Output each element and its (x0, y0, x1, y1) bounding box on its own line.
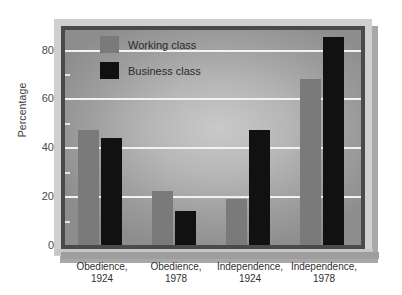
bar-business-class (249, 130, 270, 245)
bar-business-class (323, 37, 344, 245)
y-axis-tick-label: 0 (30, 240, 54, 251)
bar-chart-figure: 020406080 Percentage Obedience,1924Obedi… (0, 0, 402, 295)
x-axis-category-label-line: Obedience, (150, 261, 201, 272)
x-axis-baseline (61, 252, 379, 259)
bar-group (300, 30, 344, 245)
legend-swatch-working-class (100, 36, 119, 53)
bar-business-class (175, 211, 196, 245)
legend-label: Working class (128, 39, 196, 51)
bar-business-class (101, 138, 122, 246)
y-axis-tick-label: 20 (30, 191, 54, 202)
legend-item: Working class (100, 36, 201, 53)
x-axis-category-label-line: Independence, (217, 261, 283, 272)
x-axis-category-label-line: 1978 (277, 273, 371, 285)
legend-label: Business class (128, 65, 201, 77)
chart-legend: Working classBusiness class (100, 36, 201, 88)
bar-working-class (78, 130, 99, 245)
x-axis-category-label-line: Obedience, (76, 261, 127, 272)
y-axis-tick-labels: 020406080 (26, 30, 54, 245)
bar-working-class (226, 199, 247, 245)
legend-item: Business class (100, 62, 201, 79)
x-axis-tick-labels: Obedience,1924Obedience,1978Independence… (65, 261, 361, 291)
y-axis-title: Percentage (16, 62, 28, 158)
legend-swatch-business-class (100, 62, 119, 79)
x-axis-category-label-line: Independence, (291, 261, 357, 272)
y-axis-tick-label: 40 (30, 142, 54, 153)
bar-group (226, 30, 270, 245)
x-axis-category-label: Independence,1978 (277, 261, 371, 284)
y-axis-tick-label: 60 (30, 93, 54, 104)
y-axis-tick-label: 80 (30, 45, 54, 56)
bar-working-class (152, 191, 173, 245)
bar-working-class (300, 79, 321, 245)
